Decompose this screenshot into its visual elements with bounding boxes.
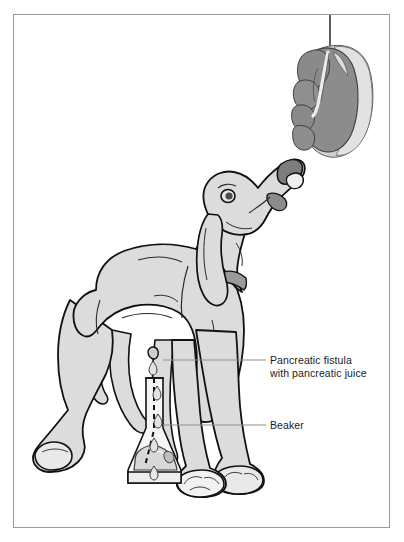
dog-nose-highlight [286, 173, 303, 189]
dog-hind-paw [35, 442, 72, 470]
figure-root: Pancreatic fistula with pancreatic juice… [0, 0, 404, 542]
label-pancreatic-fistula: Pancreatic fistula with pancreatic juice [270, 354, 367, 380]
label-beaker: Beaker [270, 419, 304, 432]
dog-belly-contour [122, 314, 172, 319]
beaker-liquid-bubble [164, 451, 174, 462]
label-pancreatic-fistula-line2: with pancreatic juice [270, 367, 367, 380]
fistula-opening [148, 347, 158, 359]
label-beaker-line1: Beaker [270, 419, 304, 432]
suspended-meat-group [292, 14, 373, 157]
label-pancreatic-fistula-line1: Pancreatic fistula [270, 354, 367, 367]
dog-hind-leg-far [110, 330, 150, 433]
dog-eye-pupil [225, 192, 232, 199]
illustration-canvas [0, 0, 404, 542]
